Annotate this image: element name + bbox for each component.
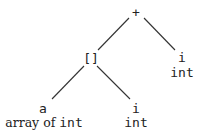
node-mid-i-label: i: [132, 102, 140, 115]
node-index-operator: []: [83, 52, 99, 65]
edge-index-to-mid-i: [97, 66, 130, 99]
node-mid-i-type: int: [124, 116, 147, 129]
node-right-i-label: i: [178, 51, 186, 64]
edge-index-to-a: [52, 66, 84, 99]
edge-root-to-right-i: [144, 18, 175, 50]
node-a-type-keyword: int: [59, 115, 82, 130]
node-plus-operator: +: [132, 6, 140, 19]
node-a-type-prefix: array of: [5, 115, 55, 130]
node-right-i-type: int: [170, 66, 193, 79]
ast-diagram: + [] i int a array of int i int: [0, 0, 202, 137]
edge-root-to-index: [98, 18, 129, 50]
node-a-label: a: [39, 102, 47, 115]
node-a-type: array of int: [5, 116, 83, 130]
